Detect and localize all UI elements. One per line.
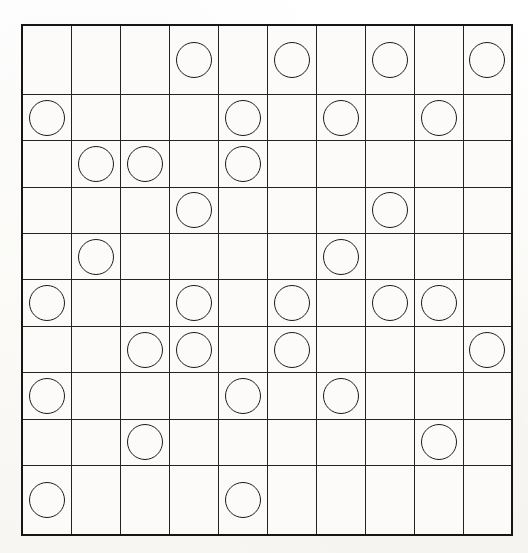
- grid-cell-circle[interactable]: [365, 187, 414, 233]
- grid-cell-empty[interactable]: [463, 234, 512, 280]
- grid-cell-empty[interactable]: [414, 373, 463, 419]
- grid-cell-circle[interactable]: [71, 234, 120, 280]
- grid-cell-empty[interactable]: [22, 234, 71, 280]
- grid-cell-empty[interactable]: [169, 373, 218, 419]
- grid-cell-circle[interactable]: [267, 326, 316, 372]
- grid-cell-circle[interactable]: [463, 25, 512, 95]
- grid-cell-empty[interactable]: [218, 419, 267, 465]
- grid-cell-circle[interactable]: [316, 234, 365, 280]
- grid-cell-empty[interactable]: [169, 141, 218, 187]
- grid-cell-empty[interactable]: [267, 187, 316, 233]
- grid-cell-empty[interactable]: [365, 234, 414, 280]
- grid-cell-empty[interactable]: [22, 25, 71, 95]
- grid-cell-empty[interactable]: [120, 465, 169, 535]
- grid-cell-circle[interactable]: [71, 141, 120, 187]
- grid-cell-circle[interactable]: [22, 95, 71, 141]
- grid-cell-empty[interactable]: [365, 373, 414, 419]
- grid-cell-empty[interactable]: [22, 419, 71, 465]
- grid-cell-empty[interactable]: [365, 419, 414, 465]
- grid-cell-empty[interactable]: [463, 465, 512, 535]
- grid-cell-circle[interactable]: [218, 465, 267, 535]
- grid-cell-circle[interactable]: [267, 280, 316, 326]
- grid-cell-empty[interactable]: [120, 280, 169, 326]
- grid-cell-circle[interactable]: [463, 326, 512, 372]
- grid-cell-empty[interactable]: [316, 326, 365, 372]
- grid-cell-empty[interactable]: [414, 141, 463, 187]
- grid-cell-empty[interactable]: [463, 95, 512, 141]
- grid-cell-empty[interactable]: [365, 141, 414, 187]
- grid-cell-circle[interactable]: [169, 25, 218, 95]
- grid-cell-circle[interactable]: [120, 326, 169, 372]
- grid-cell-empty[interactable]: [365, 326, 414, 372]
- grid-cell-empty[interactable]: [463, 373, 512, 419]
- grid-cell-circle[interactable]: [218, 95, 267, 141]
- grid-cell-empty[interactable]: [316, 25, 365, 95]
- grid-cell-empty[interactable]: [316, 141, 365, 187]
- grid-cell-empty[interactable]: [71, 419, 120, 465]
- grid-cell-empty[interactable]: [463, 187, 512, 233]
- grid-cell-empty[interactable]: [414, 25, 463, 95]
- grid-cell-empty[interactable]: [316, 419, 365, 465]
- grid-cell-empty[interactable]: [267, 95, 316, 141]
- grid-cell-empty[interactable]: [316, 280, 365, 326]
- grid-cell-empty[interactable]: [267, 465, 316, 535]
- grid-cell-circle[interactable]: [414, 280, 463, 326]
- grid-cell-empty[interactable]: [316, 187, 365, 233]
- grid-cell-empty[interactable]: [267, 234, 316, 280]
- grid-cell-empty[interactable]: [218, 25, 267, 95]
- grid-cell-empty[interactable]: [267, 141, 316, 187]
- grid-cell-empty[interactable]: [267, 419, 316, 465]
- grid-cell-empty[interactable]: [414, 187, 463, 233]
- grid-cell-circle[interactable]: [169, 280, 218, 326]
- grid-cell-empty[interactable]: [71, 280, 120, 326]
- grid-cell-empty[interactable]: [22, 187, 71, 233]
- grid-cell-empty[interactable]: [71, 326, 120, 372]
- grid-cell-empty[interactable]: [120, 25, 169, 95]
- grid-cell-empty[interactable]: [414, 326, 463, 372]
- grid-cell-empty[interactable]: [316, 465, 365, 535]
- grid-cell-empty[interactable]: [414, 465, 463, 535]
- grid-cell-empty[interactable]: [169, 465, 218, 535]
- grid-cell-circle[interactable]: [169, 187, 218, 233]
- grid-cell-empty[interactable]: [120, 95, 169, 141]
- grid-cell-empty[interactable]: [463, 141, 512, 187]
- grid-cell-empty[interactable]: [71, 465, 120, 535]
- grid-cell-circle[interactable]: [120, 419, 169, 465]
- grid-cell-empty[interactable]: [267, 373, 316, 419]
- grid-cell-circle[interactable]: [218, 373, 267, 419]
- grid-cell-empty[interactable]: [169, 419, 218, 465]
- grid-cell-circle[interactable]: [120, 141, 169, 187]
- grid-cell-empty[interactable]: [365, 95, 414, 141]
- grid-cell-empty[interactable]: [169, 234, 218, 280]
- grid-cell-circle[interactable]: [365, 25, 414, 95]
- grid-cell-circle[interactable]: [169, 326, 218, 372]
- grid-cell-circle[interactable]: [414, 419, 463, 465]
- grid-cell-empty[interactable]: [71, 95, 120, 141]
- grid-cell-empty[interactable]: [218, 187, 267, 233]
- grid-cell-empty[interactable]: [365, 465, 414, 535]
- grid-cell-empty[interactable]: [218, 234, 267, 280]
- grid-cell-circle[interactable]: [365, 280, 414, 326]
- grid-cell-circle[interactable]: [22, 465, 71, 535]
- grid-cell-circle[interactable]: [22, 373, 71, 419]
- grid-cell-circle[interactable]: [267, 25, 316, 95]
- grid-cell-empty[interactable]: [71, 25, 120, 95]
- grid-cell-empty[interactable]: [22, 141, 71, 187]
- grid-cell-empty[interactable]: [120, 234, 169, 280]
- grid-cell-empty[interactable]: [218, 280, 267, 326]
- grid-cell-empty[interactable]: [71, 187, 120, 233]
- grid-cell-empty[interactable]: [71, 373, 120, 419]
- grid-cell-empty[interactable]: [463, 280, 512, 326]
- grid-cell-empty[interactable]: [22, 326, 71, 372]
- grid-cell-empty[interactable]: [463, 419, 512, 465]
- grid-cell-circle[interactable]: [22, 280, 71, 326]
- grid-cell-circle[interactable]: [316, 373, 365, 419]
- grid-cell-empty[interactable]: [414, 234, 463, 280]
- grid-cell-circle[interactable]: [414, 95, 463, 141]
- grid-cell-empty[interactable]: [169, 95, 218, 141]
- grid-cell-empty[interactable]: [218, 326, 267, 372]
- grid-cell-empty[interactable]: [120, 187, 169, 233]
- grid-cell-circle[interactable]: [218, 141, 267, 187]
- grid-cell-empty[interactable]: [120, 373, 169, 419]
- grid-cell-circle[interactable]: [316, 95, 365, 141]
